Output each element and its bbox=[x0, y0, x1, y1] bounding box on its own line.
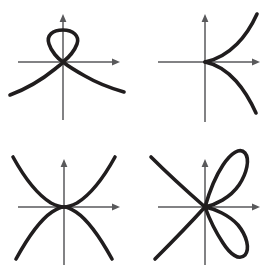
x-axis-arrow-icon bbox=[252, 204, 260, 211]
y-axis-arrow-icon bbox=[61, 159, 68, 167]
panel-cusp-opening-right bbox=[135, 0, 269, 135]
y-axis-arrow-icon bbox=[202, 14, 209, 22]
panel-node-with-loop bbox=[0, 0, 134, 135]
x-axis-arrow-icon bbox=[252, 59, 260, 66]
panel-tacnode-tangent-branches bbox=[0, 135, 134, 270]
x-axis-arrow-icon bbox=[112, 204, 120, 211]
rose-upper-petal-path bbox=[205, 151, 247, 207]
rose-lower-petal-path bbox=[205, 207, 247, 257]
panel-two-petal-rose-with-line bbox=[135, 135, 269, 270]
axes-group bbox=[158, 14, 260, 122]
cusp-upper-branch-path bbox=[205, 14, 257, 62]
cusp-lower-branch-path bbox=[205, 62, 256, 113]
x-axis-arrow-icon bbox=[112, 59, 120, 66]
y-axis-arrow-icon bbox=[202, 159, 209, 167]
rose-diagonal-branch-path bbox=[151, 157, 205, 259]
figure-sheet bbox=[0, 0, 269, 270]
y-axis-arrow-icon bbox=[60, 14, 67, 22]
